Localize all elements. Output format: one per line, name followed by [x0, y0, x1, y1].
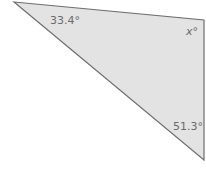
triangle-diagram: 33.4° x° 51.3° [0, 0, 206, 175]
angle-label-bottom-right: 51.3° [173, 120, 203, 133]
triangle [14, 2, 204, 160]
angle-label-top-left: 33.4° [50, 14, 80, 27]
angle-label-top-right: x° [185, 25, 198, 38]
